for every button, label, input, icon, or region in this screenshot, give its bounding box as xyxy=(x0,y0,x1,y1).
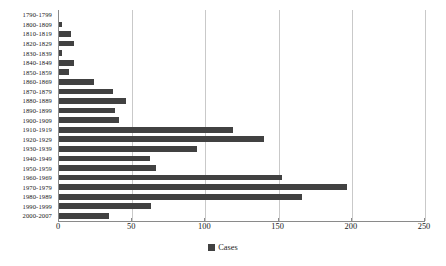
bar-row xyxy=(59,67,425,77)
bar-row xyxy=(59,48,425,58)
bar xyxy=(59,69,69,75)
bar-row xyxy=(59,211,425,221)
bar-row xyxy=(59,106,425,116)
bar-row xyxy=(59,20,425,30)
bar-row xyxy=(59,202,425,212)
bar xyxy=(59,89,113,95)
value-axis-tick-label: 100 xyxy=(198,222,211,231)
category-label: 1880-1889 xyxy=(0,96,55,106)
bar xyxy=(59,108,115,114)
category-label: 1820-1829 xyxy=(0,39,55,49)
bar xyxy=(59,50,62,56)
bar xyxy=(59,165,156,171)
bar-row xyxy=(59,39,425,49)
bar-rows xyxy=(59,10,425,221)
bar-row xyxy=(59,87,425,97)
bar-row xyxy=(59,96,425,106)
bar-row xyxy=(59,135,425,145)
bar xyxy=(59,79,94,85)
category-axis-labels: 1790-17991800-18091810-18191820-18291830… xyxy=(0,10,55,221)
plot-area xyxy=(58,10,425,222)
bar-row xyxy=(59,77,425,87)
bar xyxy=(59,203,151,209)
category-label: 1900-1909 xyxy=(0,115,55,125)
value-axis-tick-label: 0 xyxy=(56,222,60,231)
category-label: 1910-1919 xyxy=(0,125,55,135)
bar xyxy=(59,98,126,104)
legend: Cases xyxy=(0,243,446,252)
bar xyxy=(59,60,74,66)
bar-row xyxy=(59,115,425,125)
bar xyxy=(59,31,71,37)
category-label: 1840-1849 xyxy=(0,58,55,68)
value-axis-tick-label: 150 xyxy=(271,222,284,231)
value-axis-tick-label: 50 xyxy=(127,222,135,231)
category-label: 1920-1929 xyxy=(0,135,55,145)
category-label: 1970-1979 xyxy=(0,182,55,192)
category-label: 1790-1799 xyxy=(0,10,55,20)
bar-row xyxy=(59,125,425,135)
category-label: 1890-1899 xyxy=(0,106,55,116)
bar-row xyxy=(59,163,425,173)
category-label: 1830-1839 xyxy=(0,48,55,58)
bar-row xyxy=(59,173,425,183)
bar xyxy=(59,41,74,47)
value-axis-tick-label: 250 xyxy=(418,222,431,231)
bar-row xyxy=(59,144,425,154)
bar xyxy=(59,146,197,152)
bar xyxy=(59,156,150,162)
category-label: 1990-1999 xyxy=(0,202,55,212)
bar-row xyxy=(59,10,425,20)
bar xyxy=(59,136,264,142)
category-label: 1960-1969 xyxy=(0,173,55,183)
bar xyxy=(59,184,347,190)
category-label: 1850-1859 xyxy=(0,67,55,77)
category-label: 1940-1949 xyxy=(0,154,55,164)
category-label: 1800-1809 xyxy=(0,20,55,30)
bar xyxy=(59,22,62,28)
bar-row xyxy=(59,182,425,192)
legend-swatch-icon xyxy=(208,244,215,251)
bar-row xyxy=(59,154,425,164)
bar-row xyxy=(59,192,425,202)
bar xyxy=(59,194,302,200)
bar-row xyxy=(59,29,425,39)
bar xyxy=(59,175,282,181)
bar xyxy=(59,213,109,219)
category-label: 1810-1819 xyxy=(0,29,55,39)
category-label: 1870-1879 xyxy=(0,87,55,97)
category-label: 1930-1939 xyxy=(0,144,55,154)
bar xyxy=(59,127,233,133)
category-label: 1950-1959 xyxy=(0,163,55,173)
value-axis-ticks: 050100150200250 xyxy=(58,222,424,236)
bar-chart: 1790-17991800-18091810-18191820-18291830… xyxy=(0,0,446,266)
legend-label: Cases xyxy=(218,243,238,252)
bar-row xyxy=(59,58,425,68)
category-label: 1980-1989 xyxy=(0,192,55,202)
bar xyxy=(59,117,119,123)
category-label: 2000-2007 xyxy=(0,211,55,221)
gridline xyxy=(425,10,426,221)
category-label: 1860-1869 xyxy=(0,77,55,87)
value-axis-tick-label: 200 xyxy=(345,222,358,231)
